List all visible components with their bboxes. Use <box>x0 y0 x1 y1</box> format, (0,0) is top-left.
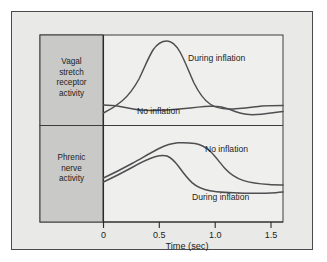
phrenic-label-line-3: activity <box>59 174 85 183</box>
vagal-label-line-4: activity <box>59 89 85 98</box>
x-tick-label-0: 0 <box>101 230 106 240</box>
figure-root: Vagal stretch receptor activity Phrenic … <box>0 0 327 262</box>
x-tick-label-1_5: 1.5 <box>265 230 278 240</box>
x-tick-label-0_5: 0.5 <box>153 230 166 240</box>
vagal-during-inflation-label: During inflation <box>188 53 246 63</box>
phrenic-label-line-2: nerve <box>61 164 82 173</box>
vagal-label-line-1: Vagal <box>61 57 82 66</box>
x-tick-label-1_0: 1.0 <box>209 230 222 240</box>
vagal-label-line-3: receptor <box>56 78 86 87</box>
x-axis-title: Time (sec) <box>165 241 208 251</box>
phrenic-no-inflation-label: No inflation <box>205 144 248 154</box>
chart-svg: Vagal stretch receptor activity Phrenic … <box>0 0 327 262</box>
phrenic-during-inflation-label: During inflation <box>192 192 250 202</box>
vagal-label-line-2: stretch <box>59 68 84 77</box>
vagal-no-inflation-label: No inflation <box>137 106 180 116</box>
phrenic-label-line-1: Phrenic <box>58 153 86 162</box>
